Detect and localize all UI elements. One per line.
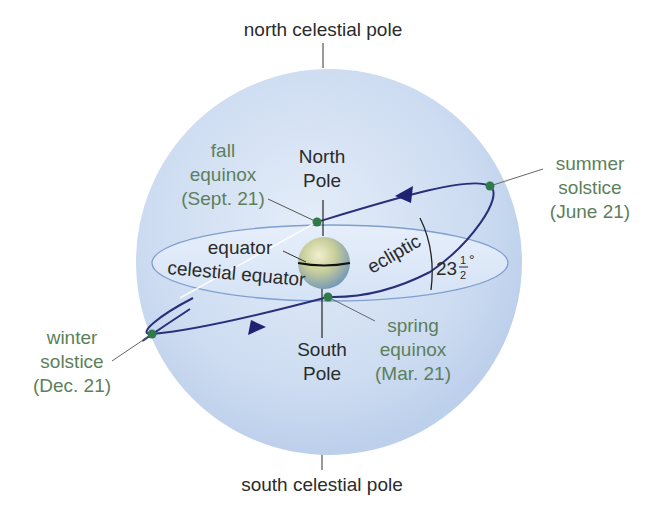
svg-text:winter: winter: [46, 327, 98, 348]
earth-globe: [298, 237, 350, 289]
fall-equinox-dot: [313, 218, 322, 227]
north-celestial-pole-label: north celestial pole: [244, 19, 402, 40]
winter-solstice-dot: [148, 330, 157, 339]
svg-text:summer: summer: [556, 153, 625, 174]
svg-text:1: 1: [460, 254, 466, 266]
south-celestial-pole-label: south celestial pole: [241, 474, 403, 495]
svg-text:fall: fall: [211, 140, 235, 161]
svg-text:23: 23: [436, 258, 457, 279]
north-pole-label-line1: North: [299, 146, 345, 167]
summer-solstice-dot: [486, 182, 495, 191]
svg-text:(Mar. 21): (Mar. 21): [375, 363, 451, 384]
svg-text:solstice: solstice: [558, 177, 621, 198]
winter-solstice-label: winter solstice (Dec. 21): [33, 327, 111, 396]
south-pole-label-line2: Pole: [303, 363, 341, 384]
spring-equinox-dot: [324, 293, 333, 302]
south-pole-label-line1: South: [297, 339, 347, 360]
celestial-sphere-diagram: north celestial pole south celestial pol…: [0, 0, 652, 516]
svg-text:spring: spring: [387, 315, 439, 336]
summer-solstice-label: summer solstice (June 21): [550, 153, 630, 222]
svg-text:°: °: [469, 252, 475, 268]
svg-text:solstice: solstice: [40, 351, 103, 372]
equator-label: equator: [208, 237, 273, 258]
svg-text:(Sept. 21): (Sept. 21): [181, 188, 264, 209]
winter-solstice-leader: [112, 334, 152, 361]
svg-text:equinox: equinox: [380, 339, 447, 360]
north-pole-label-line2: Pole: [303, 170, 341, 191]
svg-text:(June 21): (June 21): [550, 201, 630, 222]
svg-text:2: 2: [460, 269, 466, 281]
svg-text:equinox: equinox: [190, 164, 257, 185]
svg-text:(Dec. 21): (Dec. 21): [33, 375, 111, 396]
